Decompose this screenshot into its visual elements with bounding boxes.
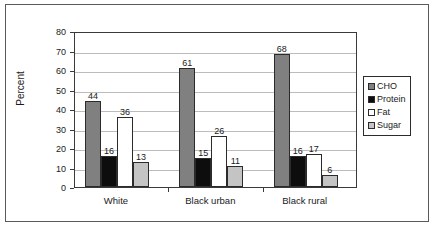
legend-label: Fat [377,108,390,117]
bar [290,156,306,187]
chart-legend: CHOProteinFatSugar [363,76,411,136]
bar [322,175,338,187]
bar-value-label: 15 [198,148,208,158]
bar-value-label: 61 [182,58,192,68]
bar-value-label: 17 [309,144,319,154]
y-tick-label: 60 [56,67,66,76]
bar-value-label: 36 [120,107,130,117]
y-tick-label: 30 [56,125,66,134]
gridline [75,53,356,54]
bar [179,68,195,187]
legend-label: CHO [377,82,397,91]
plot-area: 44163613611526116816176 [74,32,357,188]
bar-value-label: 16 [293,146,303,156]
legend-swatch-icon [368,109,375,116]
bar-value-label: 13 [136,152,146,162]
bar-value-label: 44 [88,91,98,101]
bar [117,117,133,187]
legend-item[interactable]: Fat [368,106,407,119]
y-tick-mark [70,91,74,92]
y-tick-label: 70 [56,47,66,56]
legend-item[interactable]: CHO [368,80,407,93]
y-tick-mark [70,52,74,53]
y-tick-label: 0 [61,184,66,193]
legend-item[interactable]: Protein [368,93,407,106]
x-tick-mark [168,188,169,192]
bar [101,156,117,187]
bar [274,54,290,187]
y-tick-label: 10 [56,164,66,173]
y-tick-label: 20 [56,145,66,154]
bar [306,154,322,187]
legend-item[interactable]: Sugar [368,119,407,132]
y-tick-mark [70,188,74,189]
y-tick-mark [70,32,74,33]
x-category-label: White [104,195,128,206]
x-tick-mark [263,188,264,192]
bar [85,101,101,187]
y-tick-mark [70,110,74,111]
bar-value-label: 11 [231,156,240,166]
legend-label: Protein [377,95,406,104]
y-tick-label: 50 [56,86,66,95]
bar-value-label: 68 [277,44,287,54]
y-tick-mark [70,71,74,72]
y-axis-tick-labels: 01020304050607080 [46,32,70,188]
y-tick-mark [70,149,74,150]
y-tick-label: 80 [56,28,66,37]
legend-swatch-icon [368,83,375,90]
bar [133,162,149,187]
legend-swatch-icon [368,96,375,103]
gridline [75,72,356,73]
chart-frame: Percent 01020304050607080 44163613611526… [5,4,429,222]
bar-value-label: 26 [214,126,224,136]
x-category-label: Black urban [185,195,235,206]
y-tick-mark [70,169,74,170]
y-tick-label: 40 [56,106,66,115]
bar [195,158,211,187]
legend-swatch-icon [368,122,375,129]
bar-value-label: 6 [327,165,332,175]
x-category-label: Black rural [282,195,327,206]
y-tick-mark [70,130,74,131]
y-axis-title: Percent [15,59,26,119]
bar [211,136,227,187]
bar-value-label: 16 [104,146,114,156]
gridline [75,92,356,93]
bar [227,166,243,187]
gridline [75,111,356,112]
legend-label: Sugar [377,121,401,130]
